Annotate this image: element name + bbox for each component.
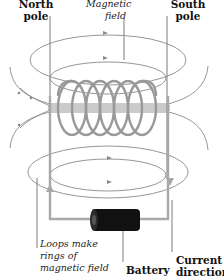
label-line: rings of [40,250,109,262]
loops-label: Loops make rings of magnetic field [40,238,109,274]
battery-label: Battery [126,264,170,276]
label-line: Magnetic [86,0,126,10]
label-line: Loops make [40,238,109,250]
current-direction-label: Current direction [176,254,224,278]
magnetic-field-label: Magnetic field [86,0,126,22]
solenoid-diagram [0,0,224,279]
south-pole-label: South pole [168,0,208,22]
north-pole-label: North pole [18,0,54,22]
label-line: Current [176,254,224,266]
label-line: field [86,10,126,22]
magnetic-field-lines [10,35,208,198]
current-arrow-icons [46,178,174,192]
label-line: North [18,0,54,10]
label-line: direction [176,266,224,278]
label-line: South [168,0,208,10]
label-line: pole [18,10,54,22]
label-line: pole [168,10,208,22]
label-line: magnetic field [40,262,109,274]
battery-icon [90,209,140,231]
